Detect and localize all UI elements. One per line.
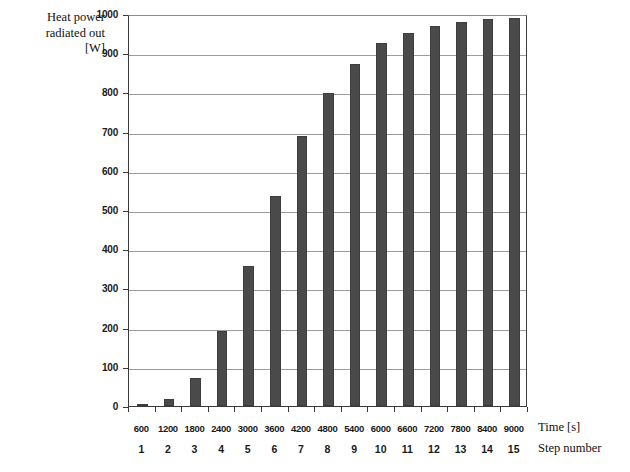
y-tick-label: 200 [66, 323, 118, 334]
bar [323, 93, 334, 406]
y-tick-label: 300 [66, 283, 118, 294]
x-tick-mark [421, 407, 422, 412]
bar [243, 266, 254, 406]
bar [376, 43, 387, 406]
y-tick-label: 900 [66, 48, 118, 59]
y-tick-mark [123, 368, 128, 369]
bar [509, 18, 520, 406]
y-tick-mark [123, 211, 128, 212]
x-tick-mark [367, 407, 368, 412]
x-tick-mark [234, 407, 235, 412]
x-tick-mark [314, 407, 315, 412]
x-tick-mark [128, 407, 129, 412]
bar [403, 33, 414, 406]
y-tick-label: 400 [66, 244, 118, 255]
y-tick-mark [123, 289, 128, 290]
bar [430, 26, 441, 406]
bar [190, 378, 201, 406]
bar [270, 196, 281, 406]
bar [483, 19, 494, 406]
y-tick-label: 600 [66, 166, 118, 177]
x-axis-caption-step: Step number [538, 441, 602, 456]
x-axis-caption-time: Time [s] [538, 420, 580, 435]
y-tick-label: 100 [66, 362, 118, 373]
x-tick-mark [394, 407, 395, 412]
y-tick-label: 800 [66, 87, 118, 98]
x-tick-label-step: 15 [492, 443, 536, 455]
x-tick-mark [341, 407, 342, 412]
y-tick-mark [123, 93, 128, 94]
x-tick-mark [527, 407, 528, 412]
y-tick-mark [123, 172, 128, 173]
bar [217, 331, 228, 406]
x-tick-mark [208, 407, 209, 412]
chart-figure: Heat power radiated out [W] 010020030040… [0, 0, 630, 472]
x-tick-mark [261, 407, 262, 412]
y-tick-mark [123, 54, 128, 55]
x-tick-label-time: 9000 [492, 423, 536, 434]
bar [137, 404, 148, 406]
y-tick-label: 1000 [66, 9, 118, 20]
plot-area [128, 15, 527, 407]
bar [297, 136, 308, 406]
bar [456, 22, 467, 406]
x-tick-mark [474, 407, 475, 412]
y-tick-label: 0 [66, 401, 118, 412]
y-tick-label: 500 [66, 205, 118, 216]
bar [350, 64, 361, 406]
y-tick-mark [123, 329, 128, 330]
x-tick-mark [447, 407, 448, 412]
x-tick-mark [181, 407, 182, 412]
y-tick-mark [123, 250, 128, 251]
y-tick-mark [123, 15, 128, 16]
x-tick-mark [500, 407, 501, 412]
x-tick-mark [155, 407, 156, 412]
x-tick-mark [288, 407, 289, 412]
bar [164, 399, 175, 406]
y-tick-label: 700 [66, 127, 118, 138]
y-tick-mark [123, 133, 128, 134]
